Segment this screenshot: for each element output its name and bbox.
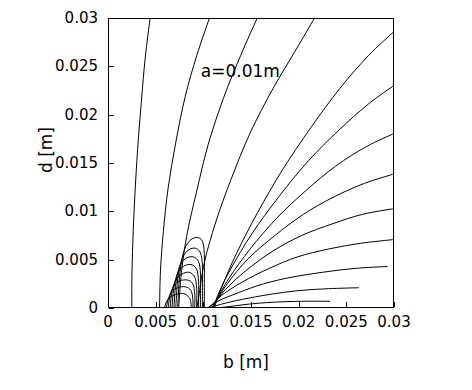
x-tick-mark <box>346 302 347 307</box>
y-axis-label: d [m] <box>36 90 56 210</box>
contour-7 <box>213 133 394 308</box>
x-axis-label: b [m] <box>186 352 306 372</box>
x-tick-mark <box>108 302 109 307</box>
y-tick-mark <box>109 163 114 164</box>
x-tick-mark <box>251 302 252 307</box>
y-tick-label: 0.03 <box>0 9 104 27</box>
y-tick-label: 0.005 <box>0 251 104 269</box>
contour-plot-figure: 00.0050.010.0150.020.0250.03 00.0050.010… <box>0 0 472 390</box>
contour-10 <box>208 239 394 308</box>
y-tick-mark <box>109 211 114 212</box>
contour-1 <box>132 19 150 308</box>
y-tick-mark <box>109 308 114 309</box>
x-tick-mark <box>394 302 395 307</box>
y-tick-label: 0.025 <box>0 57 104 75</box>
x-tick-label: 0.03 <box>354 313 434 331</box>
contour-12 <box>206 288 359 308</box>
contour-13 <box>204 301 330 308</box>
y-tick-mark <box>109 260 114 261</box>
x-tick-mark <box>299 302 300 307</box>
annotation-a-value: a=0.01m <box>201 61 280 81</box>
x-tick-mark <box>156 302 157 307</box>
y-tick-mark <box>109 66 114 67</box>
y-tick-mark <box>109 18 114 19</box>
y-tick-mark <box>109 115 114 116</box>
x-tick-mark <box>203 302 204 307</box>
